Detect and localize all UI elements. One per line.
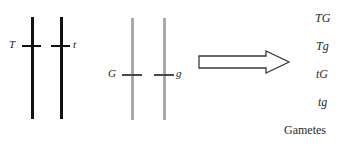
genetics-diagram-canvas: T t G g TG Tg tG tg Gametes	[0, 0, 356, 147]
gamete-tg-mixed-two: tG	[316, 68, 328, 80]
gametes-caption: Gametes	[284, 124, 326, 136]
gamete-tg-capital: TG	[315, 12, 330, 24]
gamete-list: TG Tg tG tg Gametes	[0, 0, 356, 147]
gamete-tg-lowercase: tg	[318, 96, 327, 108]
gamete-tg-mixed-one: Tg	[316, 40, 329, 52]
